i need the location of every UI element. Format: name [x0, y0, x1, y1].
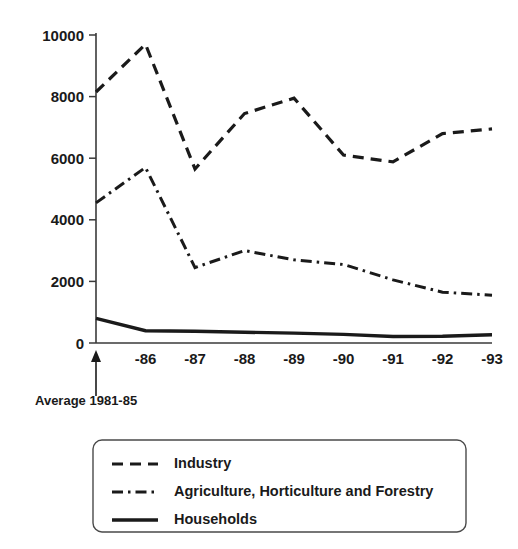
- y-tick-label: 4000: [51, 211, 84, 228]
- x-axis: -86-87-88-89-90-91-92-93: [96, 343, 503, 367]
- line-chart-figure: 0200040006000800010000 -86-87-88-89-90-9…: [0, 0, 518, 549]
- y-tick-label: 6000: [51, 150, 84, 167]
- annotation-label: Average 1981-85: [35, 393, 137, 408]
- y-tick-label: 2000: [51, 273, 84, 290]
- x-tick-label: -88: [234, 350, 256, 367]
- y-tick-label: 0: [76, 335, 84, 352]
- x-tick-label: -87: [184, 350, 206, 367]
- legend-label-1: Agriculture, Horticulture and Forestry: [174, 483, 433, 499]
- series-line-2: [96, 318, 492, 336]
- x-tick-group: -86-87-88-89-90-91-92-93: [135, 350, 503, 367]
- series-line-1: [96, 167, 492, 295]
- x-tick-label: -89: [283, 350, 305, 367]
- annotation-arrow-head: [91, 350, 101, 362]
- average-annotation: Average 1981-85: [35, 350, 137, 408]
- y-tick-group: 0200040006000800010000: [42, 27, 96, 352]
- x-tick-label: -92: [432, 350, 454, 367]
- y-axis: 0200040006000800010000: [42, 27, 96, 352]
- series-line-0: [96, 44, 492, 169]
- x-tick-label: -91: [382, 350, 404, 367]
- x-tick-label: -86: [135, 350, 157, 367]
- y-tick-label: 10000: [42, 27, 84, 44]
- y-tick-label: 8000: [51, 88, 84, 105]
- legend-label-0: Industry: [174, 455, 231, 471]
- x-tick-label: -90: [333, 350, 355, 367]
- series-group: [96, 44, 492, 336]
- legend-label-2: Households: [174, 511, 257, 527]
- chart-legend: IndustryAgriculture, Horticulture and Fo…: [93, 440, 466, 532]
- x-tick-label: -93: [481, 350, 503, 367]
- chart-canvas: 0200040006000800010000 -86-87-88-89-90-9…: [0, 0, 518, 549]
